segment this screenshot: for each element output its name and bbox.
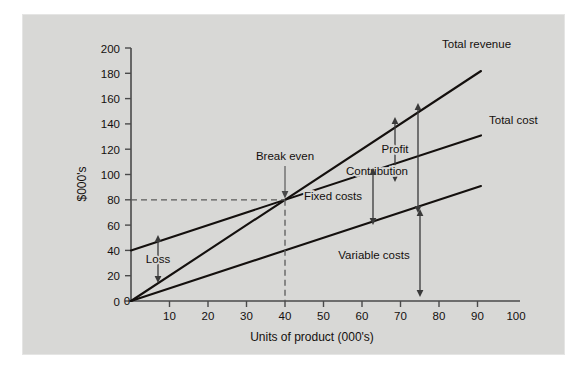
annotation-contribution-arrow <box>415 103 422 213</box>
annotation-variable-costs: Variable costs <box>338 249 410 261</box>
x-tick-label-20: 20 <box>202 310 215 322</box>
annotation-variable-costs-arrow <box>417 209 424 297</box>
variable-costs-line <box>131 186 481 301</box>
x-tick-label-90: 90 <box>471 310 484 322</box>
x-tick-label-50: 50 <box>317 310 330 322</box>
y-tick-label-40: 40 <box>107 245 120 257</box>
x-tick-label-30: 30 <box>240 310 253 322</box>
y-tick-label-0: 0 <box>114 296 120 308</box>
x-tick-label-0: 0 <box>124 295 130 307</box>
y-tick-label-180: 180 <box>101 68 120 80</box>
y-tick-label-20: 20 <box>107 270 120 282</box>
y-axis-ticks <box>125 48 131 301</box>
x-tick-label-70: 70 <box>394 310 407 322</box>
x-axis: 0 10 20 30 40 50 60 70 80 90 100 Units o… <box>124 295 526 344</box>
break-even-chart: 0 20 40 60 80 100 120 140 160 180 200 $0… <box>22 14 565 355</box>
y-tick-label-160: 160 <box>101 93 120 105</box>
y-tick-label-120: 120 <box>101 144 120 156</box>
annotation-contribution: Contribution <box>346 165 408 177</box>
y-axis-title: $000's <box>75 167 89 202</box>
figure-panel: 0 20 40 60 80 100 120 140 160 180 200 $0… <box>22 14 565 355</box>
x-tick-label-60: 60 <box>356 310 369 322</box>
y-axis: 0 20 40 60 80 100 120 140 160 180 200 $0… <box>75 43 131 308</box>
annotation-loss: Loss <box>146 253 171 265</box>
y-tick-label-80: 80 <box>107 194 120 206</box>
annotation-profit: Profit <box>382 143 410 155</box>
y-tick-label-140: 140 <box>101 118 120 130</box>
break-even-guides <box>131 166 288 301</box>
series-label-total-revenue: Total revenue <box>442 38 511 50</box>
x-tick-label-100: 100 <box>506 310 525 322</box>
y-tick-label-60: 60 <box>107 220 120 232</box>
total-revenue-line <box>131 71 481 301</box>
x-tick-label-80: 80 <box>433 310 446 322</box>
x-tick-label-40: 40 <box>279 310 292 322</box>
series-label-total-cost: Total cost <box>489 114 538 126</box>
annotation-break-even: Break even <box>256 150 314 162</box>
x-tick-label-10: 10 <box>163 310 176 322</box>
x-axis-title: Units of product (000's) <box>250 330 374 344</box>
x-axis-ticks <box>170 301 478 307</box>
series-lines <box>131 71 481 301</box>
annotation-fixed-costs: Fixed costs <box>304 190 362 202</box>
y-tick-label-100: 100 <box>101 169 120 181</box>
y-tick-label-200: 200 <box>101 43 120 55</box>
